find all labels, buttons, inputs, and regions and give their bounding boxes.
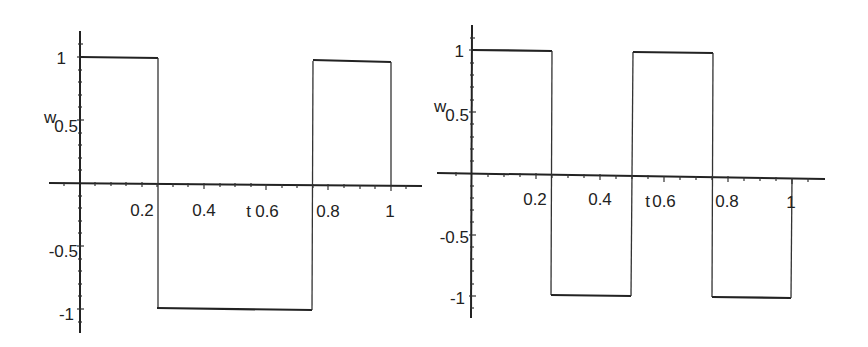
svg-text:0.4: 0.4 <box>588 190 612 209</box>
plot-left: 1 0.5 -0.5 -1 w 0.2 0.4 0.6 0.8 1 t <box>43 31 422 333</box>
figure: 1 0.5 -0.5 -1 w 0.2 0.4 0.6 0.8 1 t <box>0 0 868 347</box>
plot-right: 1 0.5 -0.5 -1 w 0.2 0.4 0.6 0.8 1 t <box>433 25 825 318</box>
svg-text:0.6: 0.6 <box>652 192 676 211</box>
svg-text:0.2: 0.2 <box>130 201 154 220</box>
svg-text:0.8: 0.8 <box>715 192 739 211</box>
x-tick-labels: 0.2 0.4 0.6 0.8 1 <box>130 201 395 221</box>
y-tick-labels: 1 0.5 -0.5 -1 <box>440 42 469 308</box>
svg-text:1: 1 <box>786 193 795 212</box>
svg-text:0.4: 0.4 <box>192 201 216 220</box>
svg-text:0.5: 0.5 <box>54 117 78 136</box>
x-axis <box>437 173 825 179</box>
svg-text:1: 1 <box>385 202 394 221</box>
x-axis-label: t <box>246 202 251 221</box>
svg-text:0.8: 0.8 <box>316 202 340 221</box>
y-axis-label: w <box>43 108 57 127</box>
x-axis-label: t <box>645 192 650 211</box>
svg-text:-1: -1 <box>59 305 74 324</box>
x-tick-labels: 0.2 0.4 0.6 0.8 1 <box>523 190 796 212</box>
svg-text:-0.5: -0.5 <box>49 242 78 261</box>
svg-text:1: 1 <box>57 49 66 68</box>
svg-text:1: 1 <box>455 42 464 61</box>
svg-text:0.5: 0.5 <box>445 106 469 125</box>
svg-text:-1: -1 <box>450 289 465 308</box>
y-tick-labels: 1 0.5 -0.5 -1 <box>49 49 78 324</box>
y-axis <box>471 25 472 318</box>
y-axis-label: w <box>433 97 447 116</box>
svg-text:-0.5: -0.5 <box>440 228 469 247</box>
svg-text:0.6: 0.6 <box>255 202 279 221</box>
svg-text:0.2: 0.2 <box>523 190 547 209</box>
